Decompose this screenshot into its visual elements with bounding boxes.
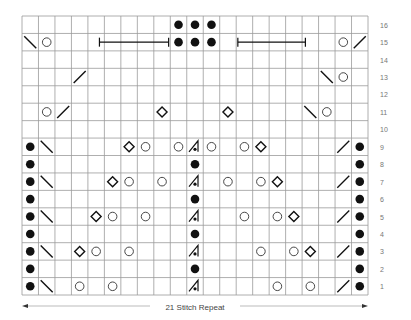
purl-icon — [26, 160, 35, 169]
ssk-icon — [41, 280, 53, 292]
purl-icon — [191, 230, 200, 239]
ssk-icon — [24, 36, 36, 48]
row-label: 13 — [380, 74, 388, 81]
yo-icon — [224, 177, 233, 186]
row-label: 12 — [380, 91, 388, 98]
yo-icon — [323, 108, 332, 117]
purl-icon — [355, 142, 364, 151]
ssk-icon — [304, 106, 316, 118]
nupp-or-bobble-icon — [75, 246, 85, 256]
row-label: 9 — [380, 144, 384, 151]
purl-icon — [355, 177, 364, 186]
yo-icon — [290, 247, 299, 256]
yo-icon — [125, 247, 134, 256]
row-label: 1 — [380, 283, 384, 290]
purl-icon — [191, 195, 200, 204]
bracket-bar — [99, 38, 168, 47]
yo-icon — [108, 212, 117, 221]
yo-icon — [141, 142, 150, 151]
nupp-or-bobble-icon — [256, 142, 266, 152]
purl-icon — [26, 230, 35, 239]
sk2p-icon — [189, 245, 198, 256]
row-labels: 12345678910111213141516 — [380, 22, 388, 291]
purl-icon — [26, 282, 35, 291]
nupp-or-bobble-icon — [91, 212, 101, 222]
purl-icon — [26, 142, 35, 151]
purl-icon — [26, 247, 35, 256]
k2tog-icon — [74, 71, 86, 83]
row-label: 8 — [380, 161, 384, 168]
row-label: 16 — [380, 22, 388, 29]
yo-icon — [240, 212, 249, 221]
chart-symbols — [24, 20, 366, 292]
yo-icon — [174, 142, 183, 151]
row-label: 11 — [380, 109, 387, 116]
yo-icon — [257, 247, 266, 256]
yo-icon — [92, 247, 101, 256]
purl-icon — [26, 212, 35, 221]
k2tog-icon — [337, 245, 349, 257]
purl-icon — [26, 195, 35, 204]
nupp-or-bobble-icon — [289, 212, 299, 222]
purl-icon — [26, 177, 35, 186]
sk2p-icon — [189, 141, 198, 152]
k2tog-icon — [337, 141, 349, 153]
purl-icon — [191, 38, 200, 47]
row-label: 3 — [380, 248, 384, 255]
purl-icon — [355, 265, 364, 274]
k2tog-icon — [57, 106, 69, 118]
k2tog-icon — [337, 176, 349, 188]
yo-icon — [108, 282, 117, 291]
purl-icon — [355, 247, 364, 256]
purl-icon — [207, 38, 216, 47]
purl-icon — [191, 20, 200, 29]
row-label: 5 — [380, 214, 384, 221]
yo-icon — [339, 73, 348, 82]
knitting-chart: 12345678910111213141516 21 Stitch Repeat — [0, 0, 411, 320]
purl-icon — [26, 265, 35, 274]
purl-icon — [355, 212, 364, 221]
yo-icon — [273, 212, 282, 221]
arrow-right-icon — [362, 304, 368, 308]
yo-icon — [42, 108, 51, 117]
purl-icon — [355, 160, 364, 169]
bracket-bar — [238, 38, 306, 47]
yo-icon — [75, 282, 84, 291]
row-label: 4 — [380, 231, 384, 238]
yo-icon — [257, 177, 266, 186]
k2tog-icon — [354, 36, 366, 48]
sk2p-icon — [189, 176, 198, 187]
yo-icon — [42, 38, 51, 47]
k2tog-icon — [337, 280, 349, 292]
yo-icon — [306, 282, 315, 291]
yo-icon — [273, 282, 282, 291]
sk2p-icon — [189, 280, 198, 291]
purl-icon — [174, 38, 183, 47]
row-label: 7 — [380, 179, 384, 186]
ssk-icon — [41, 211, 53, 223]
nupp-or-bobble-icon — [157, 107, 167, 117]
ssk-icon — [321, 71, 333, 83]
stitch-repeat-indicator: 21 Stitch Repeat — [22, 303, 368, 312]
row-label: 10 — [380, 126, 388, 133]
purl-icon — [207, 20, 216, 29]
purl-icon — [355, 282, 364, 291]
row-label: 14 — [380, 57, 388, 64]
yo-icon — [207, 142, 216, 151]
yo-icon — [240, 142, 249, 151]
sk2p-icon — [189, 211, 198, 222]
purl-icon — [174, 20, 183, 29]
row-label: 15 — [380, 39, 388, 46]
nupp-or-bobble-icon — [272, 177, 282, 187]
purl-icon — [191, 160, 200, 169]
yo-icon — [125, 177, 134, 186]
nupp-or-bobble-icon — [108, 177, 118, 187]
ssk-icon — [41, 245, 53, 257]
k2tog-icon — [337, 211, 349, 223]
nupp-or-bobble-icon — [124, 142, 134, 152]
arrow-left-icon — [22, 304, 28, 308]
row-label: 6 — [380, 196, 384, 203]
repeat-label: 21 Stitch Repeat — [165, 303, 225, 312]
yo-icon — [141, 212, 150, 221]
nupp-or-bobble-icon — [223, 107, 233, 117]
